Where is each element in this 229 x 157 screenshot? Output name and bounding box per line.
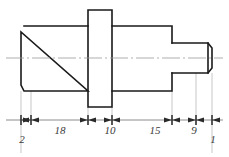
right-cylinder-outline <box>112 26 172 91</box>
arrow-1-left <box>196 118 204 123</box>
dim-label-9: 9 <box>191 124 197 136</box>
dimension-labels-group: 2 18 10 15 9 1 <box>19 124 216 145</box>
arrow-15-left <box>112 118 120 123</box>
arrow-10-left <box>88 118 96 123</box>
dim-label-18: 18 <box>55 124 67 136</box>
arrow-18-left <box>31 118 39 123</box>
arrow-10-right <box>104 118 112 123</box>
stepped-shaft-drawing: 2 18 10 15 9 1 <box>0 0 229 157</box>
part-outline-group <box>21 10 212 107</box>
left-cylinder-outline <box>21 26 88 91</box>
arrow-18-right <box>80 118 88 123</box>
dim-label-1: 1 <box>210 133 216 145</box>
dim-label-15: 15 <box>150 124 162 136</box>
dim-label-2: 2 <box>19 133 25 145</box>
arrow-1-right <box>212 118 220 123</box>
technical-drawing-canvas: 2 18 10 15 9 1 <box>0 0 229 157</box>
arrow-9-right <box>188 118 196 123</box>
extension-lines-group <box>21 73 212 153</box>
center-flange-outline <box>88 10 112 107</box>
arrow-15-right <box>164 118 172 123</box>
dim-label-10: 10 <box>105 124 117 136</box>
arrow-9-left <box>172 118 180 123</box>
